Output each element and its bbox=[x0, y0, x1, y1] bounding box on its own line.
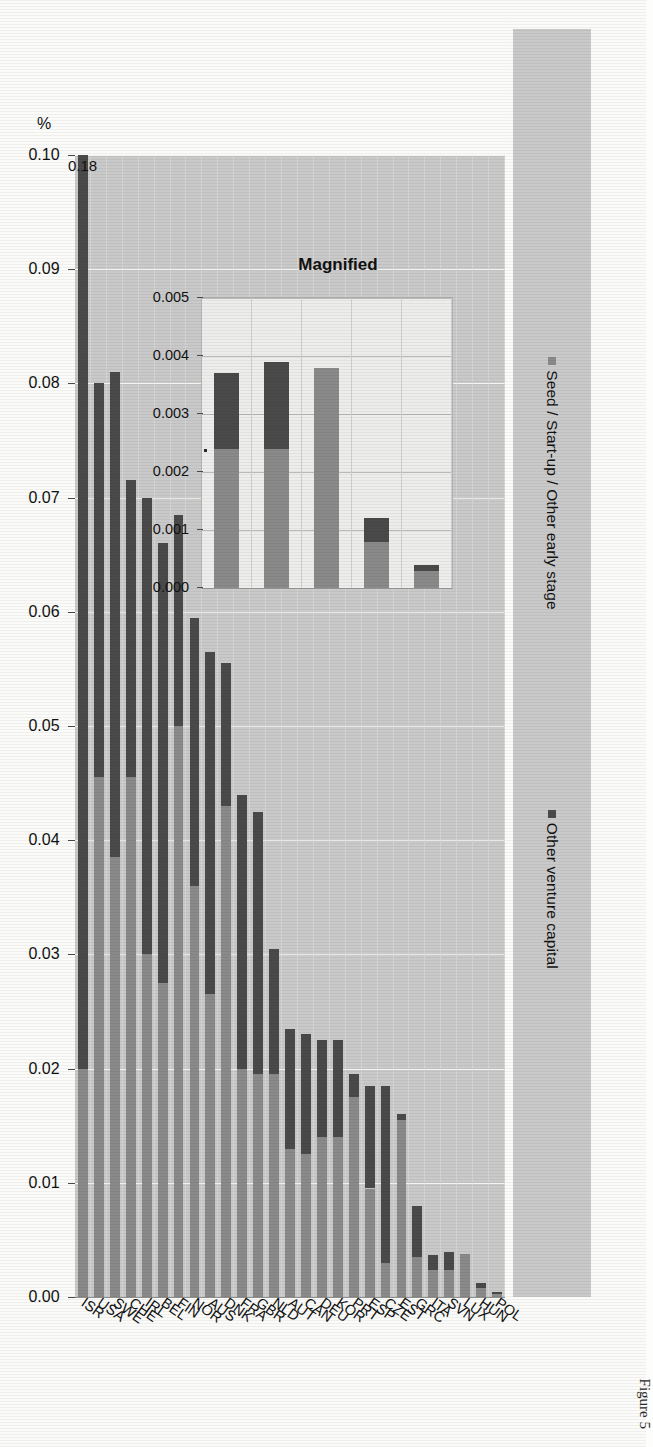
bar-segment-other-vc bbox=[237, 794, 247, 1068]
bar-segment-other-vc bbox=[397, 1114, 407, 1120]
bar-segment-seed bbox=[460, 1253, 470, 1296]
bar-segment-seed bbox=[269, 1074, 279, 1297]
bar-segment-seed bbox=[174, 726, 184, 1297]
inset-row-separator bbox=[351, 298, 352, 588]
bar-segment-other-vc bbox=[381, 1085, 391, 1262]
row-separator bbox=[90, 155, 91, 1297]
bar-segment-other-vc bbox=[94, 383, 104, 777]
bar-segment-seed bbox=[333, 1137, 343, 1297]
bar-segment-seed bbox=[301, 1154, 311, 1297]
bar-row bbox=[190, 155, 200, 1297]
bar-segment-other-vc bbox=[78, 155, 88, 1069]
axis-unit-label: % bbox=[37, 115, 51, 133]
bar-segment-seed bbox=[205, 994, 215, 1297]
inset-bar-segment-seed bbox=[415, 570, 440, 587]
axis-tick-label: 0.07 bbox=[16, 488, 72, 506]
bar-row bbox=[94, 155, 104, 1297]
inset-row-separator bbox=[451, 298, 452, 588]
axis-tick-label: 0.05 bbox=[16, 717, 72, 735]
bar-segment-seed bbox=[428, 1269, 438, 1296]
inset-bar-row bbox=[315, 298, 340, 588]
peak-value-annotation: 0.18 bbox=[68, 157, 97, 174]
bar-segment-seed bbox=[237, 1068, 247, 1296]
bar-segment-other-vc bbox=[492, 1292, 502, 1293]
legend-item-label: Other venture capital bbox=[543, 822, 561, 968]
axis-tick-label: 0.00 bbox=[16, 1288, 72, 1306]
bar-segment-other-vc bbox=[205, 651, 215, 994]
magnified-inset bbox=[201, 297, 453, 589]
axis-tick-label: 0.04 bbox=[16, 831, 72, 849]
inset-axis-tick-label: 0.001 bbox=[140, 521, 202, 537]
bar-segment-seed bbox=[413, 1257, 423, 1297]
bar-row bbox=[158, 155, 168, 1297]
bar-segment-other-vc bbox=[413, 1205, 423, 1256]
row-separator bbox=[106, 155, 107, 1297]
bar-segment-seed bbox=[158, 982, 168, 1296]
inset-axis-tick-label: 0.004 bbox=[140, 347, 202, 363]
inset-bar-row bbox=[415, 298, 440, 588]
inset-bar-segment-other-vc bbox=[365, 518, 390, 541]
legend-swatch-icon bbox=[548, 357, 556, 365]
inset-row-separator bbox=[401, 298, 402, 588]
bar-segment-seed bbox=[381, 1262, 391, 1296]
bar-segment-other-vc bbox=[285, 1028, 295, 1148]
bar-segment-seed bbox=[126, 777, 136, 1297]
row-separator bbox=[504, 155, 505, 1297]
row-separator bbox=[154, 155, 155, 1297]
bar-segment-other-vc bbox=[221, 663, 231, 806]
inset-bar-segment-seed bbox=[215, 448, 240, 587]
inset-bar-segment-other-vc bbox=[215, 373, 240, 448]
bar-segment-other-vc bbox=[444, 1252, 454, 1269]
bar-segment-seed bbox=[94, 777, 104, 1297]
legend-item-other: Other venture capital bbox=[543, 809, 561, 968]
row-separator bbox=[170, 155, 171, 1297]
bar-row bbox=[492, 155, 502, 1297]
inset-bar-row bbox=[215, 298, 240, 588]
bar-segment-other-vc bbox=[190, 617, 200, 885]
bar-segment-seed bbox=[142, 954, 152, 1297]
bar-segment-seed bbox=[397, 1119, 407, 1296]
inset-bar-segment-seed bbox=[315, 367, 340, 587]
bar-row bbox=[126, 155, 136, 1297]
bar-row bbox=[142, 155, 152, 1297]
bar-segment-other-vc bbox=[349, 1074, 359, 1097]
inset-title: Magnified bbox=[298, 254, 377, 274]
bar-segment-seed bbox=[190, 885, 200, 1296]
bar-row bbox=[174, 155, 184, 1297]
bar-segment-seed bbox=[253, 1074, 263, 1297]
bar-row bbox=[476, 155, 486, 1297]
bar-row bbox=[110, 155, 120, 1297]
bar-segment-seed bbox=[365, 1188, 375, 1296]
inset-bar-row bbox=[265, 298, 290, 588]
bar-segment-other-vc bbox=[333, 1040, 343, 1137]
row-separator bbox=[138, 155, 139, 1297]
bar-segment-seed bbox=[221, 805, 231, 1296]
bar-segment-other-vc bbox=[476, 1283, 486, 1288]
bar-row bbox=[460, 155, 470, 1297]
bar-segment-other-vc bbox=[365, 1085, 375, 1188]
inset-axis-tick-label: 0.000 bbox=[140, 579, 202, 595]
bar-segment-other-vc bbox=[301, 1034, 311, 1154]
legend-item-seed: Seed / Start-up / Other early stage bbox=[543, 357, 561, 610]
inset-axis-tick-label: 0.003 bbox=[140, 405, 202, 421]
axis-tick-label: 0.01 bbox=[16, 1173, 72, 1191]
bar-segment-other-vc bbox=[428, 1254, 438, 1269]
row-separator bbox=[456, 155, 457, 1297]
bar-segment-other-vc bbox=[158, 543, 168, 983]
bar-segment-seed bbox=[78, 1068, 88, 1296]
inset-bar-segment-other-vc bbox=[265, 361, 290, 448]
inset-row-separator bbox=[251, 298, 252, 588]
axis-tick-label: 0.02 bbox=[16, 1059, 72, 1077]
bar-segment-seed bbox=[349, 1097, 359, 1297]
chart-legend: Seed / Start-up / Other early stageOther… bbox=[513, 29, 591, 1297]
bar-segment-seed bbox=[285, 1148, 295, 1296]
row-separator bbox=[185, 155, 186, 1297]
axis-tick-label: 0.08 bbox=[16, 374, 72, 392]
axis-tick-label: 0.09 bbox=[16, 260, 72, 278]
inset-bar-segment-other-vc bbox=[415, 564, 440, 570]
inset-bar-segment-seed bbox=[365, 541, 390, 587]
axis-tick-label: 0.10 bbox=[16, 146, 72, 164]
legend-swatch-icon bbox=[548, 809, 556, 817]
bar-segment-seed bbox=[444, 1269, 454, 1296]
